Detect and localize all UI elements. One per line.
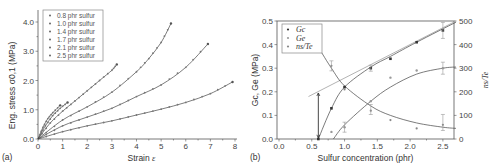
- data-point: [224, 85, 226, 87]
- data-point: [168, 106, 170, 108]
- gc-point: [330, 107, 333, 110]
- data-point: [54, 125, 56, 127]
- data-point: [119, 84, 121, 86]
- data-point: [160, 84, 162, 86]
- ns-te-point: [343, 88, 345, 90]
- data-point: [164, 35, 166, 37]
- data-point: [59, 107, 61, 109]
- y-tick-label: 1.0: [23, 106, 35, 115]
- data-point: [78, 119, 80, 121]
- data-point: [152, 110, 154, 112]
- data-point: [70, 122, 72, 124]
- x-axis-label-a: Strain ε: [128, 153, 157, 163]
- y-axis-label-b: Gc, Ge (MPa): [250, 54, 260, 107]
- ge-fit-curve: [333, 67, 456, 139]
- data-point: [64, 103, 66, 105]
- data-point: [74, 100, 76, 102]
- x-tick-label: 1: [60, 142, 65, 151]
- data-point: [54, 129, 56, 131]
- data-point: [95, 113, 97, 115]
- x-tick-label: 4: [134, 142, 139, 151]
- chart-a: 0123456780.01.02.03.04.0Strain εEng. str…: [2, 10, 238, 163]
- data-point: [39, 134, 41, 136]
- y2-axis-label-b: ns/Te: [481, 71, 490, 88]
- data-point: [62, 131, 64, 133]
- ge-point: [330, 131, 332, 133]
- y2-tick-label: 500: [459, 17, 473, 26]
- data-point: [62, 105, 64, 107]
- data-point: [192, 59, 194, 61]
- data-point: [49, 118, 51, 120]
- legend-item: 1.4 phr sulfur: [57, 28, 96, 36]
- data-point: [57, 107, 59, 109]
- gc-point: [317, 138, 320, 141]
- data-point: [103, 122, 105, 124]
- y2-tick-label: 100: [459, 111, 473, 120]
- x-tick-label: 2: [85, 142, 90, 151]
- gc-point: [343, 86, 346, 89]
- data-point: [78, 97, 80, 99]
- x-tick-label: 0.5: [306, 142, 318, 151]
- data-point: [47, 122, 49, 124]
- data-point: [99, 80, 101, 82]
- data-point: [62, 125, 64, 127]
- ge-point: [370, 100, 372, 102]
- x-tick-label: 0.0: [273, 142, 285, 151]
- data-point: [95, 83, 97, 85]
- data-point: [111, 107, 113, 109]
- data-point: [127, 116, 129, 118]
- data-point: [111, 69, 113, 71]
- data-point: [45, 134, 47, 136]
- ns-te-point: [389, 119, 391, 121]
- data-point: [136, 96, 138, 98]
- legend-a: 0.8 phr sulfur1.0 phr sulfur1.4 phr sulf…: [43, 10, 103, 61]
- data-point: [217, 89, 219, 91]
- data-point: [95, 123, 97, 125]
- x-axis-label-b: Sulfur concentration (phr): [318, 153, 414, 163]
- data-point: [95, 101, 97, 103]
- data-point: [45, 121, 47, 123]
- data-point: [167, 29, 169, 31]
- legend-item: 0.8 phr sulfur: [57, 12, 96, 20]
- data-point: [103, 76, 105, 78]
- data-point: [86, 116, 88, 118]
- data-point: [114, 65, 116, 67]
- data-point: [82, 93, 84, 95]
- y2-tick-label: 0: [459, 135, 464, 144]
- data-point: [103, 110, 105, 112]
- data-point: [57, 110, 59, 112]
- y2-tick-label: 300: [459, 64, 473, 73]
- data-point: [168, 78, 170, 80]
- y2-tick-label: 200: [459, 88, 473, 97]
- data-point: [44, 123, 46, 125]
- data-point: [201, 96, 203, 98]
- y-tick-label: 0.1: [262, 111, 274, 120]
- gc-linear-fit: [309, 21, 457, 97]
- data-point: [140, 66, 142, 68]
- x-tick-label: 3: [110, 142, 115, 151]
- data-point: [90, 86, 92, 88]
- x-tick-label: 6: [184, 142, 189, 151]
- data-point: [107, 73, 109, 75]
- y-tick-label: 0.0: [262, 135, 274, 144]
- x-tick-label: 1.5: [372, 142, 384, 151]
- data-point: [45, 127, 47, 129]
- data-point: [42, 129, 44, 131]
- legend-item: 1.0 phr sulfur: [57, 20, 96, 28]
- y-tick-label: 0.2: [262, 88, 274, 97]
- data-point: [113, 67, 115, 69]
- data-point: [54, 133, 56, 135]
- ns-te-point: [416, 127, 418, 129]
- data-point: [144, 112, 146, 114]
- data-point: [156, 47, 158, 49]
- legend-item: 1.7 phr sulfur: [57, 36, 96, 44]
- data-point: [54, 112, 56, 114]
- data-point: [127, 100, 129, 102]
- data-point: [45, 136, 47, 138]
- y-tick-label: 0.5: [262, 17, 274, 26]
- y-tick-label: 2.0: [23, 77, 35, 86]
- y-tick-label: 0.4: [262, 41, 274, 50]
- data-point: [50, 114, 52, 116]
- data-point: [86, 90, 88, 92]
- legend-item: 2.1 phr sulfur: [57, 44, 96, 52]
